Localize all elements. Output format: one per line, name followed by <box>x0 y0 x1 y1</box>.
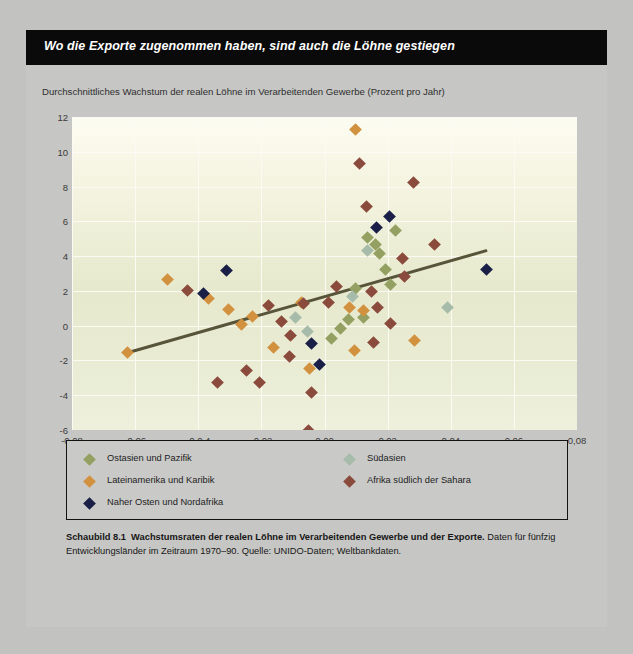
scatter-point <box>305 338 318 351</box>
legend-swatch-diamond-icon <box>83 453 96 466</box>
legend-label: Ostasien und Pazifik <box>107 453 192 463</box>
legend-label: Naher Osten und Nordafrika <box>107 497 223 507</box>
scatter-point <box>284 329 297 342</box>
caption-bold-title: Wachstumsraten der realen Löhne im Verar… <box>131 532 485 542</box>
page-root: Wo die Exporte zugenommen haben, sind au… <box>0 0 633 654</box>
legend-label: Afrika südlich der Sahara <box>367 475 471 485</box>
y-axis-ticks: 121086420-2-4-6 <box>26 117 68 430</box>
scatter-point <box>379 263 392 276</box>
scatter-point <box>240 364 253 377</box>
gridline-vertical <box>514 117 515 430</box>
y-axis-label: Durchschnittliches Wachstum der realen L… <box>42 86 445 97</box>
scatter-point <box>325 332 338 345</box>
y-tick-label: 12 <box>28 112 68 123</box>
scatter-point <box>371 301 384 314</box>
legend-swatch-diamond-icon <box>343 453 356 466</box>
scatter-point <box>342 313 355 326</box>
plot-canvas <box>72 117 577 430</box>
scatter-point <box>389 225 402 238</box>
legend-label: Lateinamerika und Karibik <box>107 475 215 485</box>
scatter-point <box>360 200 373 213</box>
gridline-vertical <box>135 117 136 430</box>
y-tick-label: -6 <box>28 425 68 436</box>
y-tick-label: 8 <box>28 181 68 192</box>
scatter-point <box>211 376 224 389</box>
legend-label: Südasien <box>367 453 406 463</box>
caption-figure-number: Schaubild 8.1 <box>66 532 126 542</box>
banner: Wo die Exporte zugenommen haben, sind au… <box>26 30 607 65</box>
y-tick-label: -2 <box>28 355 68 366</box>
scatter-point <box>222 303 235 316</box>
scatter-point <box>365 285 378 298</box>
scatter-point <box>253 376 266 389</box>
y-tick-label: 2 <box>28 285 68 296</box>
scatter-point <box>289 311 302 324</box>
gridline-vertical <box>451 117 452 430</box>
figure-caption: Schaubild 8.1 Wachstumsraten der realen … <box>66 530 571 559</box>
scatter-point <box>384 317 397 330</box>
scatter-point <box>349 123 362 136</box>
scatter-point <box>302 424 315 430</box>
scatter-point <box>348 345 361 358</box>
y-tick-label: 10 <box>28 146 68 157</box>
scatter-point <box>334 322 347 335</box>
gridline-vertical <box>198 117 199 430</box>
scatter-point <box>220 265 233 278</box>
scatter-point <box>367 336 380 349</box>
legend-swatch-diamond-icon <box>343 475 356 488</box>
y-tick-label: 6 <box>28 216 68 227</box>
y-tick-label: -4 <box>28 390 68 401</box>
scatter-point <box>343 301 356 314</box>
gridline-vertical <box>325 117 326 430</box>
legend-swatch-diamond-icon <box>83 475 96 488</box>
scatter-point <box>384 278 397 291</box>
legend-swatch-diamond-icon <box>83 497 96 510</box>
chart-area: 121086420-2-4-6 -0,08-0,06-0,0 4-0,020,0… <box>26 102 607 432</box>
scatter-point <box>428 238 441 251</box>
legend: Ostasien und PazifikLateinamerika und Ka… <box>66 440 568 520</box>
scatter-point <box>305 386 318 399</box>
scatter-point <box>408 334 421 347</box>
y-tick-label: 4 <box>28 251 68 262</box>
y-tick-label: 0 <box>28 320 68 331</box>
figure-paper: Wo die Exporte zugenommen haben, sind au… <box>26 30 607 627</box>
scatter-point <box>181 284 194 297</box>
scatter-point <box>370 221 383 234</box>
scatter-point <box>121 346 134 359</box>
scatter-point <box>161 273 174 286</box>
scatter-point <box>301 325 314 338</box>
scatter-point <box>396 252 409 265</box>
scatter-point <box>480 263 493 276</box>
banner-title: Wo die Exporte zugenommen haben, sind au… <box>44 39 455 53</box>
scatter-point <box>267 341 280 354</box>
scatter-point <box>246 310 259 323</box>
gridline-vertical <box>72 117 73 430</box>
scatter-point <box>441 301 454 314</box>
scatter-point <box>353 157 366 170</box>
